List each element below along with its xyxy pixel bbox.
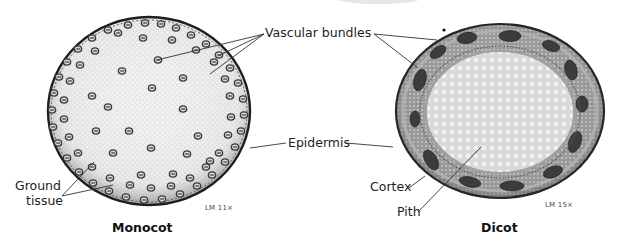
top-fade-shape <box>330 0 426 4</box>
label-ground-tissue-line1: Ground <box>15 179 61 193</box>
label-ground-tissue-line2: tissue <box>26 194 63 208</box>
dicot-stem-section <box>396 24 604 198</box>
label-cortex: Cortex <box>370 180 411 194</box>
label-pith: Pith <box>397 205 421 219</box>
label-epidermis: Epidermis <box>288 136 350 150</box>
stem-cross-section-figure: Vascular bundles Epidermis Ground tissue… <box>0 0 619 247</box>
magnification-dicot: LM 15× <box>545 201 573 209</box>
caption-monocot: Monocot <box>112 221 173 235</box>
caption-dicot: Dicot <box>481 221 518 235</box>
magnification-monocot: LM 11× <box>205 204 233 212</box>
label-vascular-bundles: Vascular bundles <box>265 26 371 40</box>
